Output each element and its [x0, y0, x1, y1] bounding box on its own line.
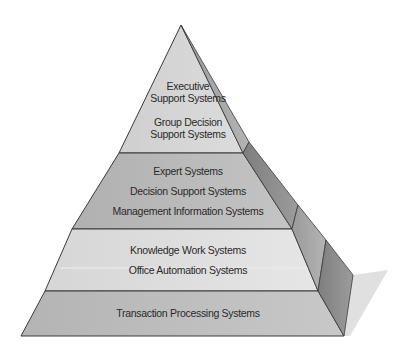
level-3-face [45, 229, 318, 291]
pyramid-diagram: Executive Support Systems Group Decision… [0, 0, 404, 358]
label-executive-support-systems: Support Systems [0, 92, 390, 104]
label-knowledge-work-systems: Knowledge Work Systems [0, 244, 390, 256]
label-management-information-systems: Management Information Systems [0, 205, 390, 217]
label-expert-systems: Expert Systems [0, 165, 390, 177]
label-transaction-processing-systems: Transaction Processing Systems [0, 307, 390, 319]
label-executive: Executive [0, 80, 390, 92]
label-office-automation-systems: Office Automation Systems [0, 264, 390, 276]
pyramid-graphic [0, 0, 404, 358]
label-decision-support-systems: Decision Support Systems [0, 185, 390, 197]
label-group-decision: Group Decision [0, 116, 390, 128]
label-group-decision-support-systems: Support Systems [0, 128, 390, 140]
